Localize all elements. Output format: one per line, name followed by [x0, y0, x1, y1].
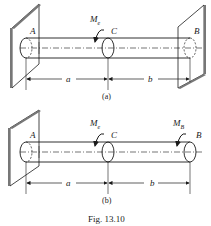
moment-arrow-mb-b [177, 134, 186, 146]
moment-label-mb-b: MB [172, 118, 185, 130]
panel-b-label: (b) [102, 196, 112, 205]
moment-arrow-me-a [95, 30, 104, 42]
panel-b: Me MB A C B a b (b) [8, 110, 204, 205]
dimension-b-label-a: b [148, 74, 153, 84]
point-a-label-b: A [29, 130, 36, 140]
left-wall-fixed-support [10, 4, 41, 88]
point-c-label-a: C [111, 26, 118, 36]
moment-label-me-b: Me [89, 118, 101, 130]
moment-label-me-a: Me [89, 14, 101, 26]
point-b-label-b: B [196, 130, 202, 140]
dimension-lines-a [26, 58, 190, 90]
right-wall-fixed-support [178, 5, 206, 89]
figure-diagram: Me A C B a b (a) [0, 0, 211, 226]
shaft-b [20, 142, 204, 162]
shaft-a [20, 38, 202, 58]
point-a-label-a: A [29, 26, 36, 36]
dimension-lines-b [26, 162, 190, 194]
dimension-a-label-a: a [66, 74, 71, 84]
left-wall-fixed-support-b [8, 110, 41, 186]
dimension-a-label-b: a [66, 178, 71, 188]
point-b-label-a: B [194, 26, 200, 36]
moment-arrow-me-b [95, 134, 104, 146]
dimension-b-label-b: b [150, 178, 155, 188]
panel-a-label: (a) [102, 92, 111, 101]
panel-a: Me A C B a b (a) [10, 4, 206, 101]
figure-caption: Fig. 13.10 [88, 214, 125, 224]
point-c-label-b: C [111, 130, 118, 140]
